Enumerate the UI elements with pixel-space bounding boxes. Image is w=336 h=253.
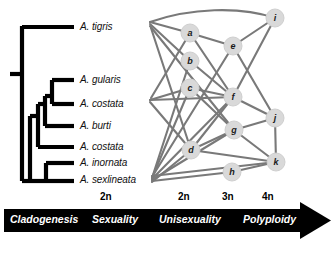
edge-costata-f (150, 97, 233, 100)
ploidy-label-sexuality: 2n (100, 191, 112, 202)
node-label-j: j (268, 111, 282, 125)
node-label-i: i (268, 11, 282, 25)
cladogram-tree (10, 26, 74, 181)
node-label-b: b (183, 54, 197, 68)
edge-tigris-i (150, 10, 275, 22)
node-label-k: k (269, 155, 283, 169)
node-label-f: f (226, 90, 240, 104)
node-label-a: a (183, 26, 197, 40)
process-arrow-head (300, 202, 331, 239)
edge-sexlineata-c (152, 88, 190, 178)
ploidy-label-triploid: 3n (222, 191, 234, 202)
node-label-e: e (226, 39, 240, 53)
node-label-c: c (183, 81, 197, 95)
node-label-g: g (227, 123, 241, 137)
taxon-label-burti: A. burti (80, 120, 111, 131)
node-label-h: h (225, 165, 239, 179)
taxon-label-costata-1: A. costata (80, 98, 123, 109)
taxon-label-gularis: A. gularis (80, 74, 121, 85)
taxon-label-inornata: A. inornata (80, 157, 127, 168)
taxon-label-tigris: A. tigris (80, 21, 112, 32)
taxon-label-costata-2: A. costata (80, 141, 123, 152)
evolution-diagram: A. tigris A. gularis A. costata A. burti… (0, 0, 336, 253)
stage-label-cladogenesis: Cladogenesis (10, 213, 78, 225)
stage-label-unisexuality: Unisexuality (159, 213, 221, 225)
stage-label-polyploidy: Polyploidy (243, 213, 296, 225)
node-label-d: d (184, 143, 198, 157)
hybridization-edges (150, 10, 276, 182)
ploidy-label-unisexuality: 2n (178, 191, 190, 202)
taxon-label-sexlineata: A. sexlineata (80, 174, 136, 185)
ploidy-label-tetraploid: 4n (262, 191, 274, 202)
stage-label-sexuality: Sexuality (92, 213, 138, 225)
